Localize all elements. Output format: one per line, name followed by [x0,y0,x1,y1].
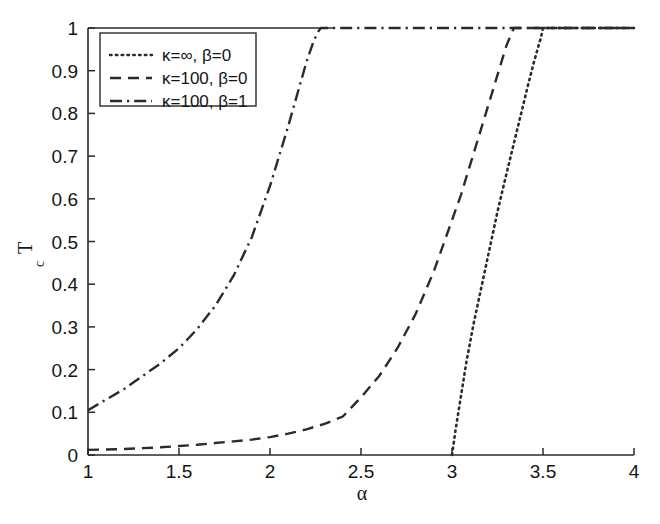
y-tick-label-4: 0.4 [52,274,79,295]
y-tick-label-5: 0.5 [52,232,78,253]
x-tick-label-4: 3 [447,461,458,482]
x-tick-label-5: 3.5 [530,461,556,482]
y-axis-title: T c [14,242,47,267]
x-tick-label-2: 2 [265,461,276,482]
legend-label-0: κ=∞, β=0 [162,46,231,65]
legend-label-2: κ=100, β=1 [162,92,247,111]
y-tick-label-7: 0.7 [52,146,78,167]
x-tick-label-1: 1.5 [166,461,192,482]
x-axis-title: α [357,482,368,504]
y-tick-label-9: 0.9 [52,61,78,82]
y-tick-label-2: 0.2 [52,360,78,381]
y-tick-label-6: 0.6 [52,189,78,210]
chart-canvas: 11.522.533.5400.10.20.30.40.50.60.70.80.… [0,0,660,524]
series-curve-0 [452,28,634,455]
figure-container: 11.522.533.5400.10.20.30.40.50.60.70.80.… [0,0,660,524]
y-axis-title-text: T [14,242,36,254]
y-axis-title-subscript: c [32,261,47,267]
x-tick-label-0: 1 [83,461,94,482]
y-tick-label-0: 0 [67,445,78,466]
x-tick-label-6: 4 [629,461,640,482]
x-tick-label-3: 2.5 [348,461,374,482]
legend[interactable]: κ=∞, β=0κ=100, β=0κ=100, β=1 [100,33,256,111]
y-tick-label-10: 1 [67,18,78,39]
legend-label-1: κ=100, β=0 [162,69,247,88]
y-tick-label-3: 0.3 [52,317,78,338]
y-tick-label-1: 0.1 [52,402,78,423]
y-tick-label-8: 0.8 [52,103,78,124]
